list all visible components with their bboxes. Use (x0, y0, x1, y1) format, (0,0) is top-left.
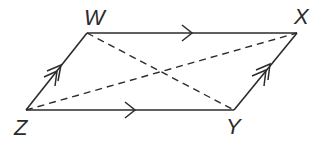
diagonal-zx (26, 33, 297, 110)
vertex-label-z: Z (13, 115, 29, 140)
diagonal-wy (87, 33, 234, 110)
parallelogram-diagram: W X Z Y (0, 0, 327, 147)
double-arrow-icon-yx (252, 64, 270, 86)
vertex-label-x: X (293, 4, 310, 29)
vertex-label-y: Y (226, 114, 242, 139)
diagram-svg: W X Z Y (0, 0, 327, 147)
vertex-label-w: W (84, 5, 107, 30)
